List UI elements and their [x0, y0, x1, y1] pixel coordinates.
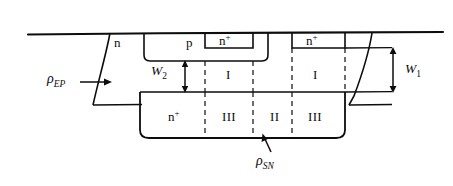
label-w1-base: W [405, 61, 416, 76]
label-rho-sn: ρSN [256, 154, 274, 168]
label-rho-ep-subscript: EP [54, 79, 66, 89]
right-epi-boundary-curve [349, 33, 372, 105]
p-well-outline [144, 33, 268, 61]
dimension-arrow-w1 [390, 47, 397, 93]
label-w2-base: W [151, 63, 162, 78]
label-region-i-right: I [313, 68, 318, 81]
label-region-ii: II [270, 110, 279, 123]
label-region-iii-left: III [222, 110, 236, 123]
label-region-i-left: I [226, 68, 231, 81]
label-n-plus-source-superscript: + [226, 32, 231, 42]
label-n-plus-drain: n+ [306, 34, 318, 47]
label-n-epi: n [114, 36, 121, 49]
label-n-plus-drain-superscript: + [313, 32, 318, 42]
label-w1: W1 [405, 62, 421, 76]
label-w1-subscript: 1 [416, 69, 421, 79]
leader-arrow-rho-ep [80, 79, 112, 86]
device-cross-section-figure: n p n+ n+ n+ I I III II III W2 W1 ρEP ρS… [0, 0, 453, 186]
label-rho-sn-subscript: SN [263, 161, 274, 171]
left-epi-boundary-curve [93, 33, 110, 105]
label-rho-sn-symbol: ρ [256, 153, 263, 168]
label-rho-ep: ρEP [47, 72, 65, 86]
diagram-canvas [0, 0, 453, 186]
label-n-plus-buried-superscript: + [175, 108, 180, 118]
label-n-plus-source: n+ [219, 34, 231, 47]
n-plus-drain-outline [292, 33, 345, 48]
left-substrate-line [93, 104, 142, 105]
label-rho-ep-symbol: ρ [47, 71, 54, 86]
label-region-iii-right: III [308, 110, 322, 123]
label-p-well: p [186, 36, 193, 49]
dimension-arrow-w2 [182, 60, 188, 93]
label-w2: W2 [151, 64, 167, 78]
leader-arrow-rho-sn [262, 134, 271, 153]
label-n-plus-buried: n+ [168, 110, 180, 123]
surface-line [28, 32, 443, 35]
label-w2-subscript: 2 [162, 71, 167, 81]
